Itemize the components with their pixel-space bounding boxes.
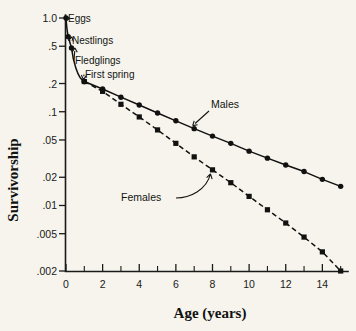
- data-point: [100, 89, 105, 94]
- x-tick-label: 6: [173, 278, 179, 290]
- data-point: [228, 180, 233, 185]
- x-tick-label: 0: [63, 278, 69, 290]
- data-point: [155, 110, 160, 115]
- data-point: [228, 141, 233, 146]
- data-point: [210, 167, 215, 172]
- data-point: [173, 141, 178, 146]
- data-point: [137, 102, 142, 107]
- data-point: [246, 148, 251, 153]
- data-point: [137, 114, 142, 119]
- survivorship-chart: 1.0.5.2.1.05.02.01.005.002 02468101214 E…: [0, 0, 356, 331]
- y-tick-label: 1.0: [42, 12, 57, 24]
- data-point: [210, 133, 215, 138]
- series-label-females: Females: [121, 191, 161, 203]
- data-point: [191, 126, 196, 131]
- males-markers: [82, 79, 344, 189]
- x-axis-title: Age (years): [174, 305, 247, 322]
- survivorship-figure: 1.0.5.2.1.05.02.01.005.002 02468101214 E…: [0, 0, 356, 331]
- series-label-males: Males: [211, 98, 239, 110]
- data-point: [118, 102, 123, 107]
- data-point: [301, 169, 306, 174]
- x-tick-label: 4: [136, 278, 142, 290]
- data-point: [338, 184, 343, 189]
- data-point: [155, 127, 160, 132]
- axis-spines: [66, 15, 349, 272]
- early-life-curve: [66, 18, 84, 82]
- y-axis-title: Survivorship: [5, 138, 21, 221]
- x-axis-tick-labels: 02468101214: [63, 278, 328, 290]
- y-axis-tick-labels: 1.0.5.2.1.05.02.01.005.002: [37, 12, 58, 277]
- data-point: [118, 94, 123, 99]
- data-point: [265, 207, 270, 212]
- annotation-nestlings: Nestlings: [72, 35, 113, 46]
- data-point: [283, 220, 288, 225]
- data-point: [173, 118, 178, 123]
- data-point: [247, 194, 252, 199]
- y-tick-label: .2: [48, 78, 57, 90]
- data-point: [320, 249, 325, 254]
- annotation-eggs: Eggs: [68, 13, 91, 24]
- x-tick-label: 12: [280, 278, 292, 290]
- data-point: [301, 234, 306, 239]
- data-point: [338, 268, 343, 273]
- y-tick-label: .002: [37, 265, 58, 277]
- x-tick-label: 2: [100, 278, 106, 290]
- data-point: [265, 155, 270, 160]
- y-tick-label: .01: [42, 199, 57, 211]
- x-axis-ticks: [66, 264, 341, 271]
- annotation-first-spring: First spring: [85, 69, 134, 80]
- y-tick-label: .005: [37, 228, 58, 240]
- data-point: [320, 177, 325, 182]
- axes-group: [59, 15, 348, 272]
- y-tick-label: .02: [42, 171, 57, 183]
- x-tick-label: 8: [210, 278, 216, 290]
- males-leader-line: [193, 111, 209, 126]
- y-tick-label: .5: [48, 40, 57, 52]
- annotation-fledglings: Fledglings: [75, 55, 121, 66]
- data-point: [192, 154, 197, 159]
- females-leader-line: [176, 174, 212, 198]
- x-tick-label: 14: [317, 278, 329, 290]
- data-point: [283, 162, 288, 167]
- y-tick-label: .05: [42, 134, 57, 146]
- x-tick-label: 10: [243, 278, 255, 290]
- y-tick-label: .1: [48, 106, 57, 118]
